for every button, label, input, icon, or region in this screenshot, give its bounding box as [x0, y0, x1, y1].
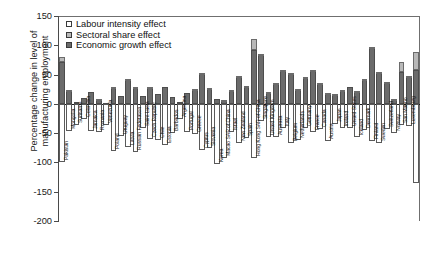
- category-label: Poland: [115, 133, 120, 149]
- y-tick-label: -50: [39, 128, 52, 138]
- y-tick-label: 100: [36, 40, 52, 50]
- bar-segment-growth: [317, 83, 323, 104]
- chart-figure: Percentage change in level of manufactur…: [0, 0, 427, 271]
- bar-segment-growth: [369, 48, 375, 104]
- bar-segment-growth: [207, 89, 213, 104]
- category-label: Colombia: [86, 96, 91, 117]
- category-label: Uruguay: [123, 115, 128, 134]
- legend-swatch-labour: [66, 21, 72, 27]
- y-tick-label: -150: [33, 187, 52, 197]
- legend-label: Labour intensity effect: [76, 19, 166, 30]
- bar-segment-sector: [59, 57, 65, 62]
- bar-segment-sector: [354, 91, 360, 93]
- bar-segment-growth: [288, 74, 294, 104]
- category-label: Austria: [329, 123, 334, 138]
- bar-segment-sector: [221, 100, 227, 102]
- category-label: Australia: [278, 116, 283, 135]
- category-label: United States: [352, 97, 357, 127]
- bar-segment-growth: [376, 73, 382, 104]
- category-label: Estonia: [167, 126, 172, 143]
- bar-segment-sector: [295, 89, 301, 91]
- legend-label: Economic growth effect: [76, 40, 171, 51]
- legend-label: Sectoral share effect: [76, 30, 160, 41]
- bar-segment-growth: [229, 90, 235, 103]
- bar-segment-sector: [325, 93, 331, 95]
- category-label: United Kingdom: [270, 100, 275, 136]
- category-label: Suriname: [78, 102, 83, 123]
- y-tick-label: 50: [42, 70, 52, 80]
- bar-segment-growth: [236, 76, 242, 104]
- category-label: Macao SAR of China: [226, 110, 231, 157]
- bar-segment-sector: [406, 76, 412, 78]
- bar-segment-sector: [310, 70, 316, 72]
- bar-segment-sector: [133, 87, 139, 89]
- bar-segment-sector: [399, 62, 405, 72]
- legend-item: Sectoral share effect: [66, 30, 171, 41]
- bar-segment-sector: [199, 73, 205, 75]
- bar-segment-growth: [125, 79, 131, 104]
- category-label: Finland: [374, 122, 379, 138]
- category-label: Barbados: [174, 110, 179, 131]
- category-label: Norway: [396, 114, 401, 131]
- bar-group[interactable]: [59, 16, 65, 221]
- bar-group[interactable]: [214, 16, 220, 221]
- bar-segment-sector: [147, 87, 153, 89]
- y-tick-label: 150: [36, 11, 52, 21]
- category-label: Switzerland: [389, 101, 394, 127]
- bar-segment-sector: [340, 90, 346, 92]
- category-label: San Marino: [403, 97, 408, 123]
- bar-segment-sector: [303, 77, 309, 79]
- bar-segment-growth: [362, 79, 368, 104]
- bar-group[interactable]: [207, 16, 213, 221]
- bar-segment-growth: [133, 88, 139, 104]
- bar-segment-growth: [340, 91, 346, 104]
- category-label: Ireland: [344, 111, 349, 126]
- bar-segment-sector: [384, 82, 390, 84]
- category-label: Iceland: [359, 119, 364, 135]
- bar-segment-growth: [280, 71, 286, 104]
- category-label: Belgium: [293, 122, 298, 140]
- category-label: New Zealand: [241, 112, 246, 141]
- category-label: Greece: [197, 116, 202, 132]
- category-label: Latvia: [130, 132, 135, 145]
- bar-segment-growth: [244, 87, 250, 104]
- bar-segment-sector: [192, 89, 198, 91]
- bar-segment-growth: [66, 91, 72, 104]
- bar-segment-sector: [273, 83, 279, 85]
- legend-swatch-sector: [66, 32, 72, 38]
- category-label: Israel: [233, 118, 238, 130]
- bar-segment-sector: [229, 90, 235, 92]
- legend-item: Labour intensity effect: [66, 19, 171, 30]
- legend-swatch-growth: [66, 42, 72, 48]
- bar-segment-growth: [162, 87, 168, 103]
- category-label: Chile: [160, 127, 165, 138]
- y-tick-label: -100: [33, 157, 52, 167]
- category-label: Jamaica: [93, 110, 98, 129]
- bar-segment-growth: [295, 89, 301, 104]
- bar-segment-growth: [59, 62, 65, 104]
- bar-segment-sector: [376, 72, 382, 74]
- bar-segment-growth: [199, 73, 205, 103]
- bar-segment-sector: [125, 79, 131, 81]
- category-label: Venezuela: [108, 100, 113, 123]
- bar-segment-sector: [266, 92, 272, 94]
- bar-segment-sector: [96, 99, 102, 101]
- category-label: Saint Lucia: [145, 102, 150, 127]
- category-label: Canada: [322, 109, 327, 127]
- bar-group[interactable]: [376, 16, 382, 221]
- category-label: Mongolia: [71, 109, 76, 129]
- bar-segment-growth: [192, 89, 198, 104]
- category-label: Pakistan: [64, 141, 69, 160]
- category-label: Sweden: [381, 123, 386, 141]
- bar-segment-sector: [207, 88, 213, 90]
- category-label: Slovenia: [211, 127, 216, 146]
- bar-segment-sector: [362, 79, 368, 81]
- category-label: Cyprus: [204, 132, 209, 148]
- category-label: Romania: [100, 110, 105, 130]
- chart-legend: Labour intensity effectSectoral share ef…: [66, 19, 171, 51]
- category-label: Germany: [307, 106, 312, 127]
- category-label: Hong Kong SAR of China: [256, 100, 261, 157]
- bar-segment-sector: [236, 76, 242, 78]
- category-label: Italy: [285, 117, 290, 126]
- bar-segment-sector: [251, 39, 257, 50]
